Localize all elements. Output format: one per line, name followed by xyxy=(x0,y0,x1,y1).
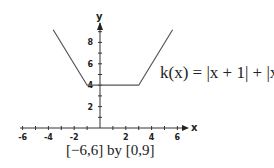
y-tick-label: 2 xyxy=(87,103,93,112)
x-tick-label: 4 xyxy=(149,133,155,142)
x-tick-label: -2 xyxy=(70,133,79,142)
function-curve xyxy=(53,30,172,85)
y-tick-label: 6 xyxy=(87,60,93,69)
y-tick-label: 8 xyxy=(87,38,93,47)
window-label: [−6,6] by [0,9] xyxy=(66,142,154,159)
x-axis-arrow-icon xyxy=(182,125,189,131)
x-tick-label: 6 xyxy=(175,133,181,142)
y-axis-arrow-icon xyxy=(97,22,103,30)
function-label: k(x) = |x + 1| + |x + 3| xyxy=(160,63,274,83)
x-axis-label: x xyxy=(191,122,198,133)
x-tick-label: -4 xyxy=(44,133,53,142)
x-tick-label: 2 xyxy=(123,133,129,142)
y-axis-label: y xyxy=(96,11,103,22)
x-tick-label: -6 xyxy=(18,133,27,142)
